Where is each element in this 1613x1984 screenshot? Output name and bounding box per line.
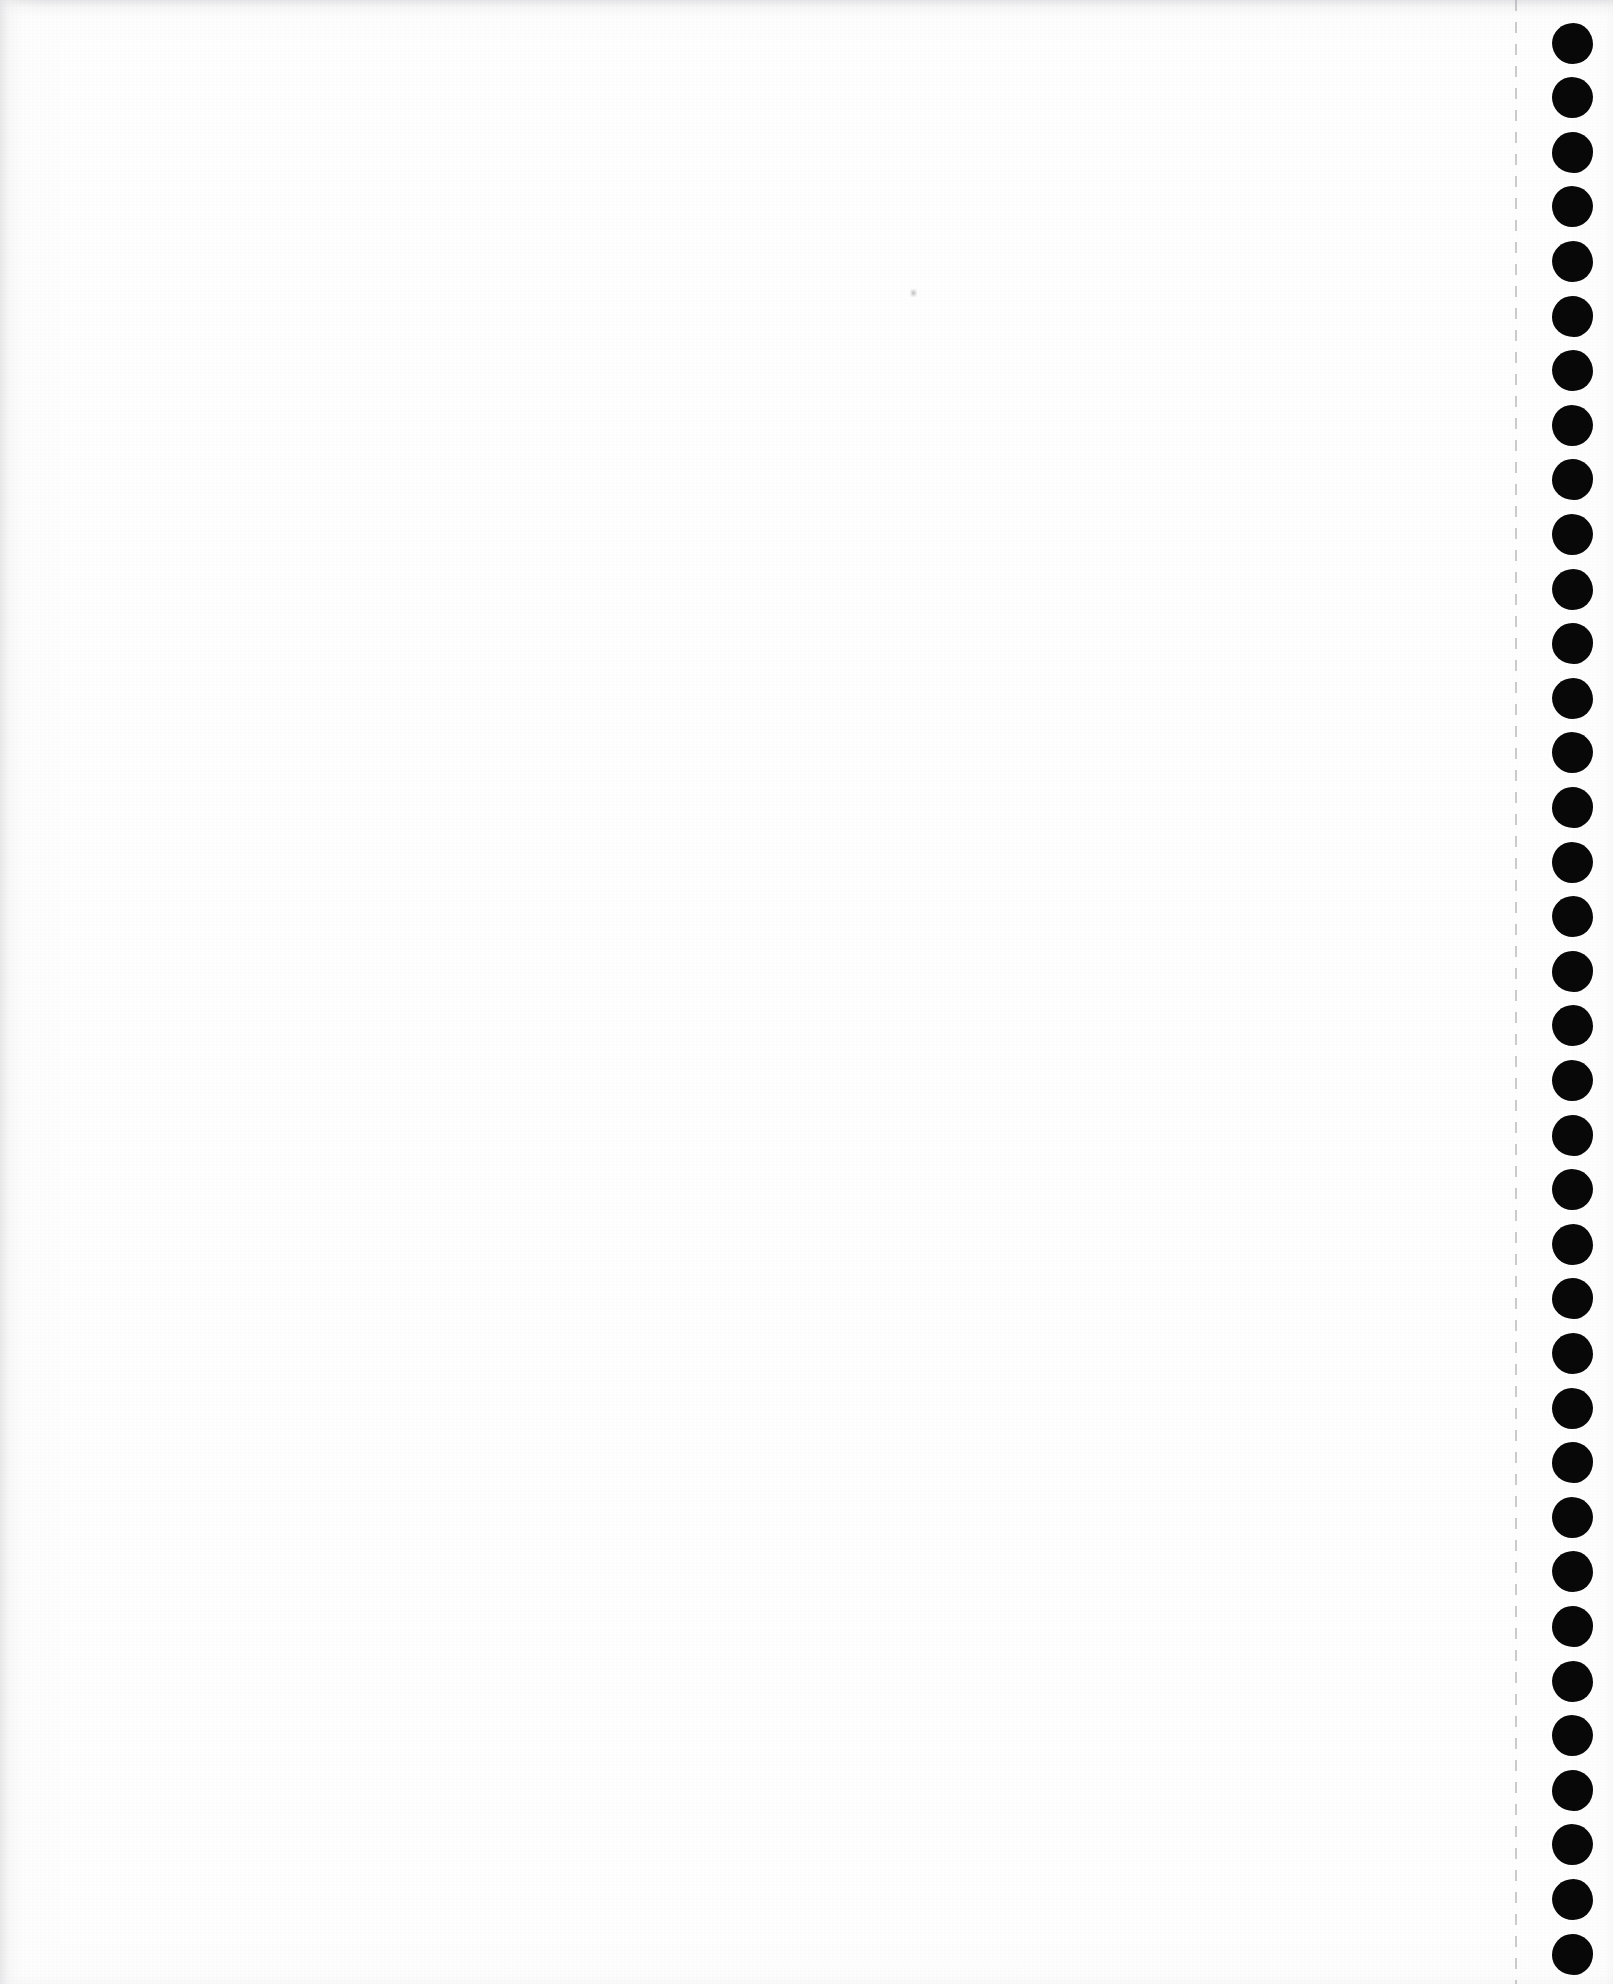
page-content-area (0, 0, 1515, 1984)
scanned-page (0, 0, 1613, 1984)
